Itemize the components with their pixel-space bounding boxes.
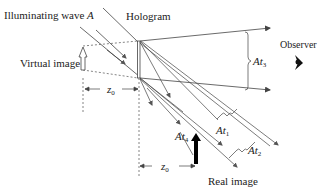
at3-label: At3 (253, 56, 266, 69)
braces (217, 32, 255, 158)
hologram-label: Hologram (126, 11, 171, 22)
z0-virtual-label: z0 (107, 84, 115, 97)
at4-label: At4 (175, 131, 188, 144)
z0-real-label: z0 (161, 161, 169, 174)
hologram-plate (138, 41, 141, 78)
observer-label: Observer (280, 40, 317, 50)
illuminating-wave-label: Illuminating wave A (4, 10, 94, 21)
virtual-image-arrow (79, 47, 87, 70)
virtual-image-label: Virtual image (20, 58, 80, 69)
at2-label: At2 (248, 145, 261, 158)
virtual-image-dashes (83, 41, 139, 178)
real-image-arrow (191, 133, 201, 164)
observer-eye-icon (295, 55, 303, 70)
real-image-label: Real image (208, 176, 258, 187)
at1-label: At1 (216, 125, 229, 138)
observer-rays (140, 28, 270, 90)
